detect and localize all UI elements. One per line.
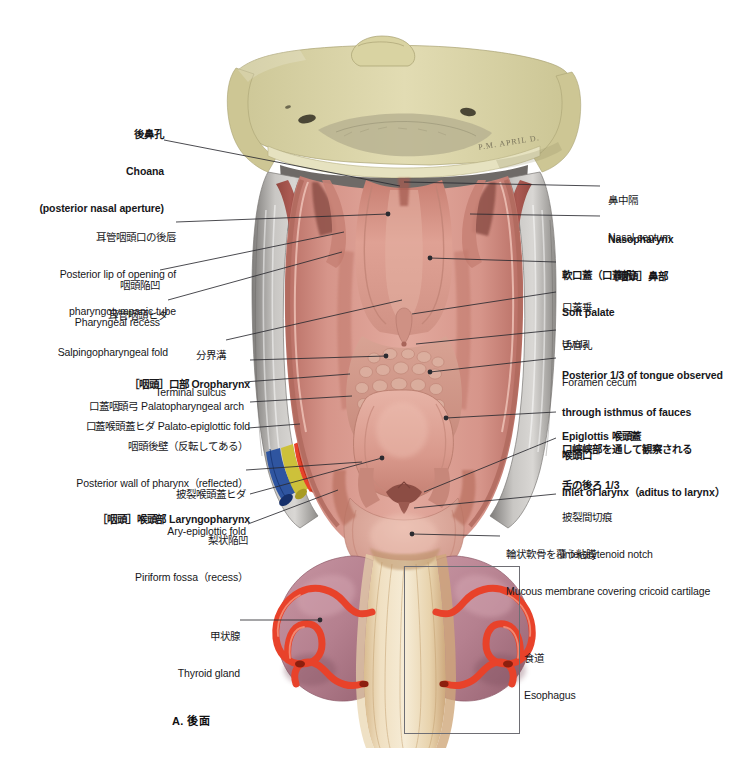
label-posterior-lip-jp: 耳管咽頭口の後唇 — [0, 231, 176, 243]
anatomy-plate: 後鼻孔 Choana (posterior nasal aperture) 耳管… — [0, 0, 738, 767]
label-posterior-wall-jp: 咽頭後壁（反転してある） — [0, 440, 248, 452]
label-uvula-jp: 口蓋垂 — [562, 301, 692, 313]
label-choana-jp: 後鼻孔 — [0, 128, 164, 140]
skull-base-bone — [227, 36, 580, 178]
label-piriform-fossa-jp: 梨状陥凹 — [0, 534, 248, 546]
label-piriform-fossa: 梨状陥凹 Piriform fossa（recess） — [0, 510, 248, 608]
label-mucous-membrane-en: Mucous membrane covering cricoid cartila… — [506, 585, 738, 597]
esophagus-detail-frame — [404, 566, 520, 734]
label-choana-en: Choana — [0, 165, 164, 177]
label-esophagus-en: Esophagus — [524, 689, 644, 701]
label-thyroid-gland-en: Thyroid gland — [0, 667, 240, 679]
label-mucous-membrane-cricoid: 輪状軟骨を覆う粘膜 Mucous membrane covering crico… — [506, 524, 738, 622]
label-esophagus-jp: 食道 — [524, 652, 644, 664]
figure-caption: A. 後面 — [172, 712, 210, 728]
label-interarytenoid-notch-jp: 披裂間切痕 — [562, 511, 712, 523]
pharyngeal-mucosa — [285, 176, 523, 582]
label-thyroid-gland: 甲状腺 Thyroid gland — [0, 606, 240, 704]
label-inlet-of-larynx-jp: 喉頭口 — [562, 449, 738, 461]
label-salpingopharyngeal-fold-jp: 耳管咽頭ヒダ — [0, 309, 168, 321]
label-mucous-membrane-jp: 輪状軟骨を覆う粘膜 — [506, 548, 738, 560]
label-piriform-fossa-en: Piriform fossa（recess） — [0, 571, 248, 583]
label-nasal-septum-jp: 鼻中隔 — [608, 194, 738, 206]
label-esophagus: 食道 Esophagus — [524, 628, 644, 726]
label-thyroid-gland-jp: 甲状腺 — [0, 630, 240, 642]
label-nasopharynx-en: Nasopharynx — [608, 233, 738, 245]
label-posterior-third-en: Posterior 1/3 of tongue observed — [562, 369, 738, 381]
